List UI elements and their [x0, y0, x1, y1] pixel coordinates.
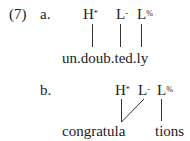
association-lines [0, 0, 190, 141]
association-line-l-minus-b [122, 99, 145, 122]
